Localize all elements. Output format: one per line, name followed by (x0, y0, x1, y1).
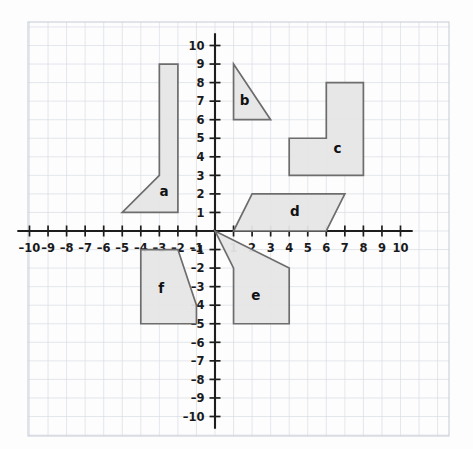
x-tick-label: 4 (285, 241, 293, 255)
graph-canvas: –10–9–8–7–6–5–4–3–2–11234567891010987654… (0, 0, 473, 449)
shape-label-b: b (240, 92, 250, 108)
y-tick-label: 3 (196, 169, 204, 183)
y-tick-label: 9 (196, 57, 204, 71)
shape-label-c: c (333, 140, 341, 156)
y-tick-label: 2 (196, 187, 204, 201)
x-tick-label: 8 (359, 241, 367, 255)
y-tick-label: –2 (191, 261, 205, 275)
y-tick-label: –7 (191, 354, 205, 368)
x-tick-label: 5 (304, 241, 312, 255)
shape-label-d: d (290, 203, 300, 219)
x-tick-label: –8 (60, 241, 74, 255)
y-tick-label: 5 (196, 131, 204, 145)
y-tick-label: 6 (196, 113, 204, 127)
y-tick-label: 10 (188, 39, 204, 53)
coordinate-plane-figure: –10–9–8–7–6–5–4–3–2–11234567891010987654… (0, 0, 473, 449)
x-tick-label: 9 (378, 241, 386, 255)
y-tick-label: 1 (196, 206, 204, 220)
x-tick-label: –9 (41, 241, 55, 255)
x-tick-label: 3 (267, 241, 275, 255)
x-tick-label: 10 (392, 241, 408, 255)
y-tick-label: –6 (191, 336, 205, 350)
shape-label-f: f (158, 280, 164, 296)
x-tick-label: –6 (97, 241, 111, 255)
shape-label-e: e (251, 287, 260, 303)
x-tick-label: 6 (322, 241, 330, 255)
y-tick-label: 8 (196, 76, 204, 90)
x-tick-label: 7 (341, 241, 349, 255)
y-tick-label: –1 (191, 243, 205, 257)
y-tick-label: –9 (191, 391, 205, 405)
x-tick-label: –5 (115, 241, 129, 255)
y-tick-label: –10 (183, 410, 205, 424)
y-tick-label: –8 (191, 373, 205, 387)
y-tick-label: 7 (196, 94, 204, 108)
y-tick-label: 4 (196, 150, 204, 164)
x-tick-label: –7 (78, 241, 92, 255)
x-tick-label: –10 (19, 241, 41, 255)
shape-label-a: a (159, 183, 168, 199)
